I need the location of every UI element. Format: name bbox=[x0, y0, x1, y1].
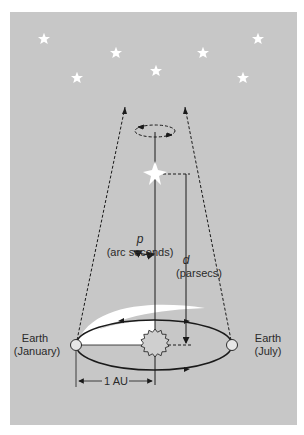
star-icon bbox=[110, 47, 122, 58]
parallax-diagram: p (arc seconds) d (parsecs) Earth (Janua… bbox=[0, 0, 304, 435]
baseline-label: 1 AU bbox=[104, 375, 128, 387]
star-icon bbox=[252, 33, 264, 44]
distance-unit: (parsecs) bbox=[176, 267, 222, 279]
parallax-unit: (arc seconds) bbox=[107, 246, 174, 258]
earth-july-month: (July) bbox=[255, 345, 282, 357]
background-stars bbox=[38, 33, 264, 83]
parallax-symbol: p bbox=[136, 232, 144, 246]
earth-july-icon bbox=[227, 340, 238, 351]
star-icon bbox=[150, 65, 162, 76]
sight-line-january bbox=[76, 107, 125, 345]
earth-january-label: Earth bbox=[22, 332, 48, 344]
earth-july-label: Earth bbox=[255, 332, 281, 344]
earth-january-icon bbox=[71, 340, 82, 351]
star-icon bbox=[237, 72, 249, 83]
earth-january-month: (January) bbox=[14, 345, 60, 357]
star-icon bbox=[197, 47, 209, 58]
star-icon bbox=[71, 72, 83, 83]
sight-line-july bbox=[185, 107, 232, 345]
distance-symbol: d bbox=[183, 253, 190, 267]
star-icon bbox=[38, 33, 50, 44]
